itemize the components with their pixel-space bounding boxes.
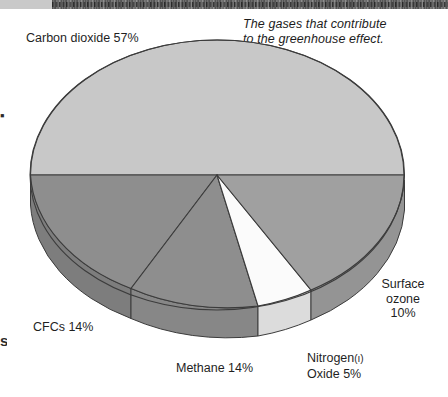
pie-label-nitrogen-oxide-line-2: Oxide 5% xyxy=(307,367,391,382)
pie-chart-svg xyxy=(0,0,448,397)
pie-label-nitrogen-oxide-name: Nitrogen xyxy=(307,351,354,365)
pie-chart xyxy=(0,0,448,397)
pie-label-methane: Methane 14% xyxy=(176,361,253,376)
pie-slice-carbon-dioxide xyxy=(31,40,405,175)
pie-label-surface-ozone: Surface ozone 10% xyxy=(370,277,436,321)
pie-label-cfcs: CFCs 14% xyxy=(33,320,93,335)
pie-label-nitrogen-oxide-line-1: Nitrogen(ı) xyxy=(307,351,391,367)
pie-label-surface-ozone-line-1: Surface xyxy=(370,277,436,292)
pie-label-carbon-dioxide: Carbon dioxide 57% xyxy=(26,31,139,46)
pie-label-surface-ozone-line-3: 10% xyxy=(370,306,436,321)
pie-label-surface-ozone-line-2: ozone xyxy=(370,292,436,307)
pie-label-nitrogen-oxide: Nitrogen(ı) Oxide 5% xyxy=(307,351,391,381)
pie-label-nitrogen-oxide-oxidation-state: (ı) xyxy=(354,353,363,364)
